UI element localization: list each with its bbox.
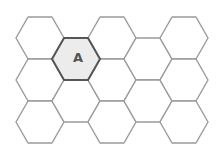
- hex-grid: A: [0, 0, 222, 159]
- cell-labels: A: [73, 50, 83, 65]
- hex-grid-diagram: A: [0, 0, 222, 159]
- hex-cell-label: A: [73, 50, 83, 65]
- hex-cells: [16, 17, 208, 143]
